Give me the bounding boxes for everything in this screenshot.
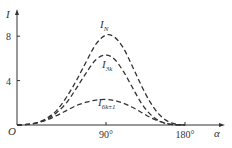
chart: 4890°180° INI3kI6k±1 I α O — [0, 0, 232, 148]
x-axis-label: α — [214, 127, 220, 139]
y-axis-label: I — [5, 8, 11, 20]
series-label: I3k — [101, 58, 113, 73]
curves: INI3kI6k±1 — [17, 18, 185, 125]
x-tick-label: 180° — [176, 129, 195, 140]
series-label: I6k±1 — [97, 96, 116, 111]
x-axis-arrow-icon — [219, 123, 225, 127]
labels: I α O — [5, 8, 220, 139]
x-tick-label: 90° — [99, 129, 113, 140]
curve-0 — [17, 35, 185, 125]
y-axis-arrow-icon — [15, 9, 19, 15]
y-tick-label: 8 — [6, 31, 11, 42]
axes — [15, 9, 225, 127]
y-tick-label: 4 — [6, 76, 11, 87]
series-label: IN — [99, 18, 109, 33]
origin-label: O — [8, 125, 16, 137]
